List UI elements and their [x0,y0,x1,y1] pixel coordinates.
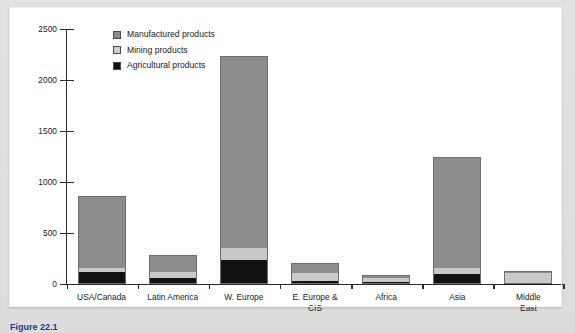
x-tick-label: W. Europe [224,292,263,303]
y-tick-mark-inner [67,284,74,285]
x-tick-label: Middle East [511,292,547,313]
y-tick-label: 0 [52,280,57,288]
legend-swatch-agricultural-icon [113,62,121,70]
x-tick-label: USA/Canada [77,292,126,303]
chart-panel: 05001000150020002500 USA/CanadaLatin Ame… [9,7,562,307]
y-tick-label: 1500 [38,127,57,135]
x-tick-mark [563,284,564,289]
legend-item-agricultural: Agricultural products [113,58,215,74]
bar-africa [362,275,410,284]
x-tick-mark [493,284,494,289]
y-tick-mark [60,233,66,234]
y-tick-mark-inner [67,131,74,132]
chart-legend: Manufactured products Mining products Ag… [113,27,215,74]
bar-segment-mine [291,273,339,281]
figure-caption: Figure 22.1 [10,322,58,333]
bar-segment-agri [220,260,268,284]
bar-segment-agri [291,281,339,284]
bar-w-europe [220,56,268,284]
x-axis-line [66,284,564,285]
bar-segment-manu [149,255,197,272]
bar-segment-manu [220,56,268,249]
legend-swatch-mining-icon [113,46,121,54]
bar-segment-agri [149,278,197,284]
legend-swatch-manufactured-icon [113,31,121,39]
bar-segment-agri [504,284,552,285]
y-tick-mark [60,80,66,81]
legend-item-mining: Mining products [113,43,215,59]
y-tick-label: 2000 [38,76,57,84]
bar-e-europe-cis [291,263,339,284]
y-tick-label: 1000 [38,178,57,186]
bar-usa-canada [78,196,126,284]
bar-segment-agri [362,282,410,284]
legend-label-manufactured: Manufactured products [127,30,215,39]
x-tick-label: Latin America [147,292,198,303]
bar-segment-mine [220,248,268,260]
y-axis-line [66,29,67,284]
x-tick-mark [280,284,281,289]
bar-latin-america [149,255,197,284]
y-tick-label: 500 [43,229,57,237]
bar-asia [433,157,481,284]
y-tick-mark-inner [67,182,74,183]
y-tick-mark [60,29,66,30]
bar-segment-mine [504,273,552,284]
x-tick-mark [138,284,139,289]
y-tick-mark-inner [67,233,74,234]
legend-label-mining: Mining products [127,46,188,55]
y-tick-label: 2500 [38,25,57,33]
bar-segment-manu [291,263,339,273]
bar-segment-manu [78,196,126,268]
bar-segment-mine [433,268,481,275]
x-tick-label: E. Europe & CIS [292,292,337,313]
y-tick-mark [60,131,66,132]
x-tick-mark [351,284,352,289]
y-tick-mark [60,284,66,285]
x-tick-label: Asia [449,292,465,303]
bar-segment-agri [433,274,481,284]
y-tick-mark-inner [67,29,74,30]
x-tick-mark [422,284,423,289]
legend-label-agricultural: Agricultural products [127,61,205,70]
x-tick-label: Africa [375,292,396,303]
legend-item-manufactured: Manufactured products [113,27,215,43]
x-tick-mark [209,284,210,289]
figure-page: 05001000150020002500 USA/CanadaLatin Ame… [0,0,575,333]
bar-middle-east [504,271,552,284]
x-tick-mark [67,284,68,289]
bar-segment-agri [78,272,126,284]
y-tick-mark-inner [67,80,74,81]
bar-segment-manu [433,157,481,268]
y-tick-mark [60,182,66,183]
